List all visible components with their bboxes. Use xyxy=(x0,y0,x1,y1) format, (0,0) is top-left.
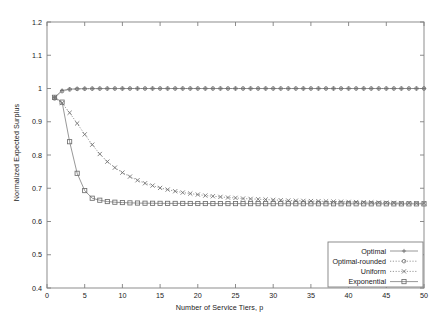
legend-label-optimal-rounded: Optimal-rounded xyxy=(332,257,386,266)
x-tick-label: 15 xyxy=(156,291,164,300)
y-tick-label: 1.1 xyxy=(32,51,42,60)
y-tick-label: 0.5 xyxy=(32,250,42,259)
x-tick-label: 45 xyxy=(382,291,390,300)
x-tick-label: 50 xyxy=(420,291,428,300)
x-tick-label: 0 xyxy=(45,291,49,300)
legend-label-optimal: Optimal xyxy=(361,247,386,256)
y-tick-label: 0.9 xyxy=(32,117,42,126)
y-tick-label: 1.2 xyxy=(32,18,42,27)
x-tick-label: 20 xyxy=(194,291,202,300)
x-tick-label: 30 xyxy=(269,291,277,300)
series-line-optimal-rounded xyxy=(55,89,424,99)
series-line-exponential xyxy=(55,97,424,204)
x-tick-label: 40 xyxy=(345,291,353,300)
y-tick-label: 0.8 xyxy=(32,151,42,160)
x-axis-title: Number of Service Tiers, p xyxy=(0,303,439,312)
figure: 051015202530354045500.40.50.60.70.80.911… xyxy=(0,0,439,330)
chart-canvas: 051015202530354045500.40.50.60.70.80.911… xyxy=(0,0,439,330)
series-line-uniform xyxy=(55,98,424,203)
y-tick-label: 0.4 xyxy=(32,284,42,293)
y-tick-label: 0.6 xyxy=(32,217,42,226)
x-tick-label: 5 xyxy=(83,291,87,300)
y-tick-label: 0.7 xyxy=(32,184,42,193)
legend-label-uniform: Uniform xyxy=(361,267,386,276)
x-tick-label: 25 xyxy=(232,291,240,300)
x-tick-label: 10 xyxy=(118,291,126,300)
series-line-optimal xyxy=(55,89,424,98)
x-tick-label: 35 xyxy=(307,291,315,300)
y-tick-label: 1 xyxy=(38,84,42,93)
y-axis-title: Normalized Expected Surplus xyxy=(12,53,21,253)
legend-label-exponential: Exponential xyxy=(348,277,386,286)
